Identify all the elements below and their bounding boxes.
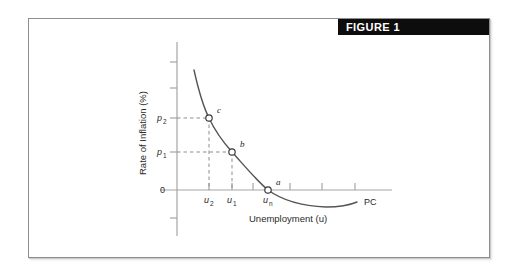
x-tick-label-u2: u 2 [204, 195, 214, 207]
y-tick-label-p1-sub: 1 [163, 152, 167, 159]
point-label-b: b [240, 139, 245, 149]
y-axis-title: Rate of Inflation (%) [137, 91, 148, 175]
y-tick-label-zero: 0 [160, 185, 165, 195]
point-marker-c [206, 115, 212, 121]
point-label-c: c [217, 105, 221, 115]
x-tick-label-u1: u 1 [227, 195, 237, 207]
y-tick-label-p1: p 1 [156, 147, 167, 159]
y-tick-label-p2: p 2 [156, 113, 167, 125]
x-tick-label-u2-base: u [204, 195, 209, 205]
x-tick-label-u2-sub: 2 [210, 200, 214, 207]
x-axis-ticks [209, 183, 355, 190]
point-label-a: a [276, 177, 281, 187]
x-tick-label-un-base: u [263, 195, 268, 205]
curve-label-pc: PC [364, 197, 377, 207]
x-tick-label-u1-sub: 1 [233, 200, 237, 207]
y-axis-ticks [170, 62, 177, 218]
x-axis-title: Unemployment (u) [249, 213, 327, 224]
figure-root: FIGURE 1 [0, 0, 517, 273]
x-tick-label-un: u n [263, 195, 273, 207]
point-marker-a [265, 187, 271, 193]
y-tick-label-p1-base: p [156, 147, 162, 157]
y-tick-label-p2-base: p [156, 113, 162, 123]
y-tick-label-p2-sub: 2 [163, 118, 167, 125]
dashed-guide-lines [177, 118, 232, 190]
phillips-curve-plot: c b a PC p 2 p 1 0 u 2 u 1 u n Rate of I… [0, 0, 517, 273]
curve-point-markers [206, 115, 271, 193]
x-tick-label-un-sub: n [269, 200, 273, 207]
x-tick-label-u1-base: u [227, 195, 232, 205]
point-marker-b [229, 149, 235, 155]
